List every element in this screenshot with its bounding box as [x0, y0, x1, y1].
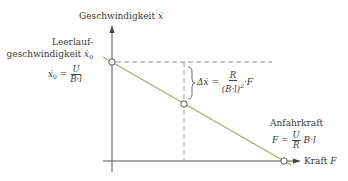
start-force-formula: F = UR B·l [272, 131, 316, 150]
y-axis-title: Geschwindigkeit ẋ [79, 11, 163, 22]
idle-speed-label-line2: geschwindigkeit ẋ0 [7, 49, 93, 62]
idle-speed-point [109, 59, 115, 65]
x-axis-arrow-icon [293, 159, 301, 164]
delta-speed-formula: Δẋ = R(B·l)2·F [197, 71, 253, 94]
operating-point [181, 101, 187, 107]
idle-speed-label-line1: Leerlauf- [52, 37, 93, 48]
delta-brace [188, 67, 195, 99]
diagram-canvas [0, 0, 348, 181]
start-force-label: Anfahrkraft [270, 118, 323, 129]
start-force-point [281, 158, 287, 164]
idle-speed-formula: ẋ0 = UB·l [48, 65, 82, 84]
x-axis-title: Kraft F [304, 156, 336, 167]
y-axis-arrow-icon [110, 25, 115, 33]
